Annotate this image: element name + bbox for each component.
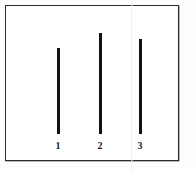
- figure-root: 1 2 3: [0, 0, 196, 170]
- vertical-line-1: [57, 48, 60, 134]
- plot-area: 1 2 3: [0, 0, 196, 170]
- line-label-2: 2: [93, 141, 107, 151]
- line-label-1: 1: [51, 141, 65, 151]
- vertical-line-3: [139, 39, 142, 134]
- line-label-3: 3: [133, 141, 147, 151]
- vertical-line-2: [99, 33, 102, 134]
